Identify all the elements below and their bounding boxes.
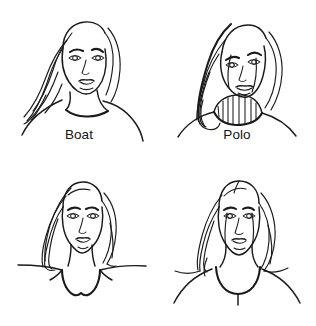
figure-label-boat: Boat xyxy=(0,128,158,142)
figure-cell-sweetheart: Sweetheart xyxy=(0,163,158,326)
sweetheart-neckline-illustration xyxy=(0,163,158,326)
neckline-styles-chart: Boat xyxy=(0,0,316,326)
figure-cell-scooped: Scooped xyxy=(158,163,316,326)
scooped-neckline-illustration xyxy=(158,163,316,326)
figure-label-polo: Polo xyxy=(158,128,316,142)
figure-cell-boat: Boat xyxy=(0,0,158,163)
figure-cell-polo: Polo xyxy=(158,0,316,163)
